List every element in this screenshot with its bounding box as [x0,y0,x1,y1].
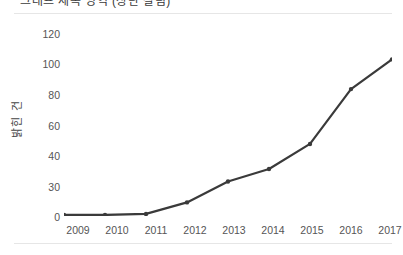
data-point [185,200,189,204]
y-tick-label: 120 [26,29,60,40]
data-point [267,167,271,171]
x-tick-label: 2016 [339,224,362,236]
y-axis-tick-labels: 120 100 80 60 40 30 0 [22,0,60,255]
y-axis-title: 밝힌 건 [9,96,23,142]
divider-top [14,13,392,14]
data-point [308,142,312,146]
y-tick-label: 60 [26,121,60,132]
x-tick-label: 2015 [300,224,323,236]
x-tick-label: 2011 [145,224,168,236]
data-point [103,213,107,216]
x-tick-label: 2013 [222,224,245,236]
divider-bottom [14,243,392,244]
y-tick-label: 80 [26,90,60,101]
data-point-markers [64,57,392,216]
x-tick-label: 2017 [378,224,401,236]
x-tick-label: 2009 [66,224,89,236]
x-axis-tick-labels: 2009 2010 2011 2012 2013 2014 2015 2016 … [64,224,392,238]
data-point [144,212,148,216]
data-point [349,87,353,91]
data-point [64,213,66,216]
x-tick-label: 2014 [261,224,284,236]
y-tick-label: 0 [26,212,60,223]
x-tick-label: 2012 [183,224,206,236]
chart-figure: 그래프 제목 영역 (상단 잘림) 밝힌 건 120 100 80 60 40 … [0,0,403,255]
data-point [226,179,230,183]
y-tick-label: 30 [26,182,60,193]
line-chart-svg [64,28,392,216]
clipped-title-strip: 그래프 제목 영역 (상단 잘림) [0,0,403,11]
plot-area [64,28,392,216]
y-tick-label: 40 [26,151,60,162]
data-series-line [64,59,392,215]
x-tick-label: 2010 [105,224,128,236]
y-tick-label: 100 [26,59,60,70]
